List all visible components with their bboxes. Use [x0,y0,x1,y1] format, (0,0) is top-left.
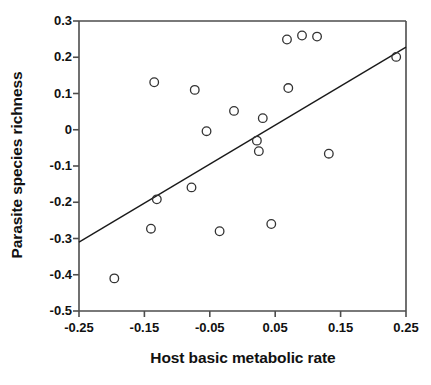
x-tick-label: 0.05 [250,320,300,335]
y-tick-label: 0.2 [34,49,72,64]
data-point-marker [255,147,264,156]
data-point-marker [298,31,307,40]
y-tick-label: -0.5 [34,303,72,318]
x-tick-label: 0.15 [316,320,366,335]
y-tick-label: -0.3 [34,231,72,246]
regression-line [79,47,406,242]
x-tick-label: -0.15 [119,320,169,335]
data-point-marker [150,78,159,87]
data-point-marker [202,127,211,136]
data-point-marker [258,114,267,123]
y-axis-label: Parasite species richness [0,0,34,330]
data-point-marker [187,183,196,192]
data-point-marker [253,136,262,145]
x-tick-label: -0.25 [54,320,104,335]
data-point-marker [230,107,239,116]
y-tick-label: 0.3 [34,13,72,28]
data-point-marker [325,149,334,158]
y-axis-label-text: Parasite species richness [8,71,26,258]
data-point-marker [110,274,119,283]
data-point-marker [267,220,276,229]
data-point-marker [392,53,401,62]
data-point-marker [284,84,293,93]
y-tick-label: -0.4 [34,267,72,282]
regression-line-segment [79,47,406,242]
y-tick-label: -0.2 [34,194,72,209]
y-tick-label: 0.1 [34,86,72,101]
axis-ticks [73,21,406,317]
data-point-marker [147,224,156,233]
x-axis-label: Host basic metabolic rate [79,349,407,367]
y-tick-label: 0 [34,122,72,137]
data-point-marker [190,86,199,95]
x-axis-label-text: Host basic metabolic rate [150,349,335,366]
data-point-marker [313,32,322,41]
axes-group [79,21,406,311]
data-point-marker [215,227,224,236]
data-point-marker [283,35,292,44]
scatter-plot-figure: Parasite species richness Host basic met… [0,0,431,385]
x-tick-label: 0.25 [381,320,431,335]
y-tick-label: -0.1 [34,158,72,173]
data-points [110,31,400,282]
x-tick-label: -0.05 [185,320,235,335]
